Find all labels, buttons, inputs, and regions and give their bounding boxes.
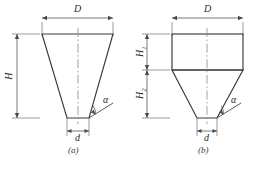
arrow-d-left-b [197, 129, 202, 133]
figure-drawing-canvas [0, 0, 256, 172]
caption-panel-b: (b) [198, 146, 209, 155]
h1-subscript: 1 [140, 46, 148, 50]
arrow-d-right-a [85, 129, 90, 133]
h1-base-letter: H [134, 50, 145, 57]
dimension-label-D-a: D [74, 4, 81, 14]
arrow-d-left-a [67, 129, 72, 133]
arrow-d-right-b [213, 129, 218, 133]
arrow-D-left-a [42, 16, 47, 20]
dimension-label-H2-b: H2 [135, 84, 148, 104]
engineering-figure: D H d α (a) D H1 H2 d α (b) [0, 0, 256, 172]
h2-base-letter: H [134, 92, 145, 99]
dimension-label-D-b: D [204, 4, 211, 14]
arrow-D-right-a [108, 16, 113, 20]
arrow-D-right-b [238, 16, 243, 20]
arrow-H2-top-b [145, 70, 149, 75]
angle-label-alpha-a: α [103, 95, 108, 105]
panel-b-group [142, 16, 243, 136]
h2-subscript: 2 [140, 88, 148, 92]
rectangle-outline-b [172, 34, 243, 70]
trapezoid-outline-a [42, 34, 113, 118]
angle-label-alpha-b: α [231, 95, 236, 105]
arrow-H-top-a [15, 34, 19, 39]
panel-a-group [12, 16, 113, 136]
dimension-label-d-b: d [204, 133, 209, 143]
arrow-D-left-b [172, 16, 177, 20]
dimension-label-d-a: d [75, 133, 80, 143]
arrow-H1-bottom-b [145, 65, 149, 70]
dimension-label-H1-b: H1 [135, 42, 148, 62]
dimension-label-H-a: H [4, 69, 14, 83]
arrow-H2-bottom-b [145, 113, 149, 118]
arrow-H1-top-b [145, 34, 149, 39]
arrow-H-bottom-a [15, 113, 19, 118]
caption-panel-a: (a) [68, 146, 79, 155]
